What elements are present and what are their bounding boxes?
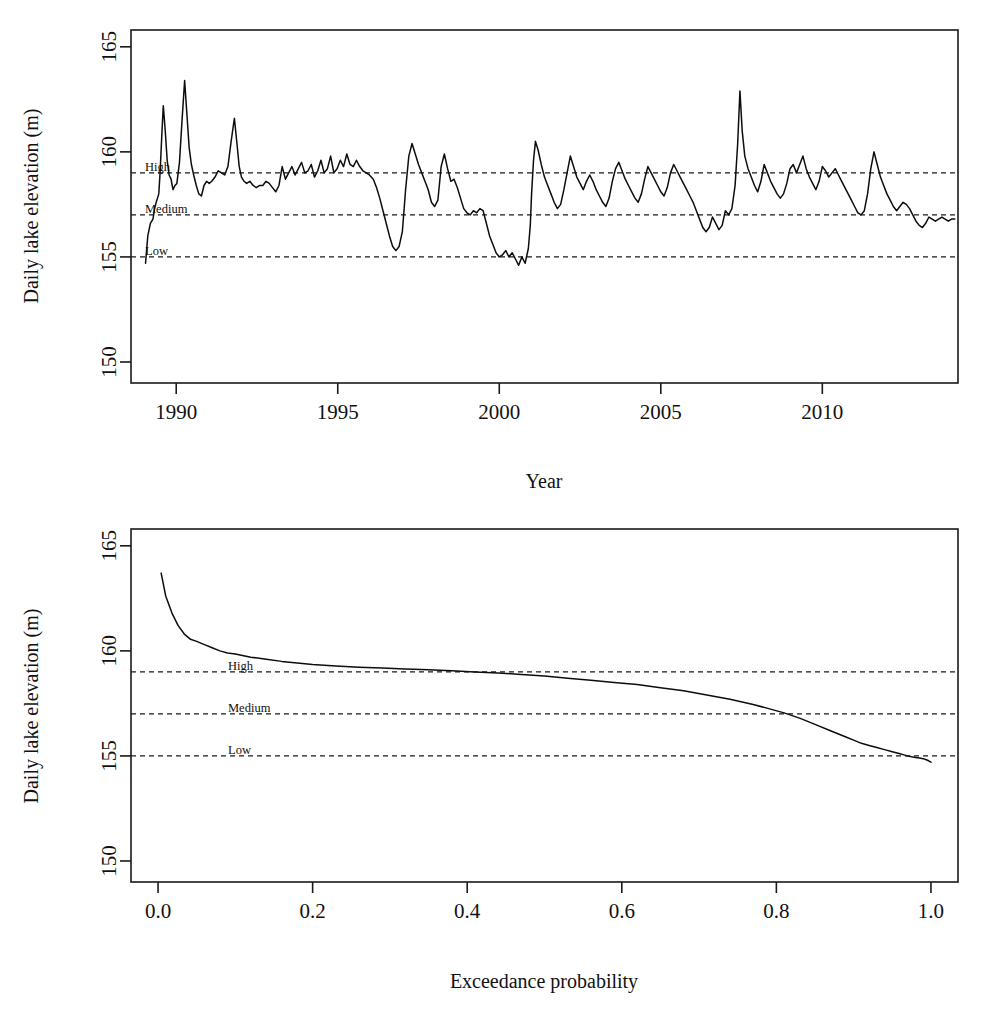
exceedance-chart-svg: 165160155150 0.00.20.40.60.81.0 HighMedi… bbox=[0, 510, 999, 1021]
x-tick-label: 2010 bbox=[801, 400, 843, 424]
threshold-label-medium: Medium bbox=[228, 701, 271, 715]
panel-exceedance: 165160155150 0.00.20.40.60.81.0 HighMedi… bbox=[0, 510, 999, 1021]
y-tick-label: 155 bbox=[97, 241, 121, 273]
y-tick-label: 150 bbox=[97, 845, 121, 877]
y-axis-title: Daily lake elevation (m) bbox=[20, 109, 43, 304]
x-tick-label: 0.2 bbox=[300, 899, 326, 923]
x-tick-label: 1.0 bbox=[918, 899, 944, 923]
y-tick-label: 160 bbox=[97, 635, 121, 667]
x-tick-label: 2005 bbox=[640, 400, 682, 424]
y-axis-title: Daily lake elevation (m) bbox=[20, 609, 43, 804]
threshold-label-high: High bbox=[228, 659, 254, 673]
timeseries-chart-svg: 165160155150 19901995200020052010 HighMe… bbox=[0, 0, 999, 510]
y-tick-label: 165 bbox=[97, 31, 121, 63]
x-tick-label: 0.0 bbox=[145, 899, 171, 923]
panel-timeseries: 165160155150 19901995200020052010 HighMe… bbox=[0, 0, 999, 510]
x-tick-label: 0.4 bbox=[454, 899, 481, 923]
panel-background bbox=[0, 510, 999, 1021]
y-tick-label: 155 bbox=[97, 740, 121, 772]
y-tick-label: 150 bbox=[97, 346, 121, 378]
x-tick-label: 1990 bbox=[155, 400, 197, 424]
y-tick-label: 165 bbox=[97, 530, 121, 562]
x-tick-label: 0.8 bbox=[763, 899, 789, 923]
x-tick-label: 1995 bbox=[317, 400, 359, 424]
figure-root: 165160155150 19901995200020052010 HighMe… bbox=[0, 0, 999, 1021]
threshold-label-low: Low bbox=[228, 743, 251, 757]
threshold-label-medium: Medium bbox=[145, 202, 188, 216]
x-tick-label: 0.6 bbox=[609, 899, 635, 923]
x-tick-label: 2000 bbox=[478, 400, 520, 424]
x-axis-title: Exceedance probability bbox=[450, 970, 638, 993]
y-tick-label: 160 bbox=[97, 136, 121, 168]
x-axis-title: Year bbox=[526, 470, 563, 492]
threshold-label-low: Low bbox=[145, 244, 168, 258]
